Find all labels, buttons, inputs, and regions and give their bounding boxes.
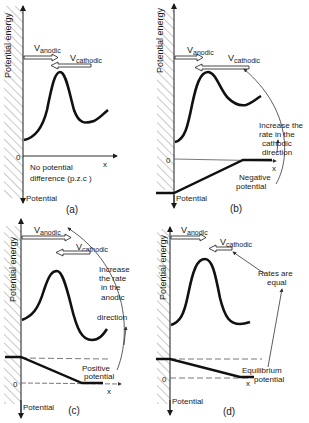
reference-line bbox=[21, 358, 108, 359]
y-axis-label: Potential energy bbox=[3, 12, 13, 78]
potential-note: potential bbox=[84, 372, 114, 381]
potential-profile bbox=[156, 359, 254, 377]
v-anodic-label: Vanodic bbox=[181, 225, 208, 236]
note-line: Increase bbox=[99, 265, 130, 274]
note-line: direction bbox=[97, 313, 127, 322]
potential-label: Potential bbox=[172, 397, 203, 406]
zero-label: 0 bbox=[13, 380, 18, 389]
note-line: Rates are bbox=[258, 269, 293, 278]
note-line: cathodic bbox=[262, 139, 292, 148]
y-axis-label: Potential energy bbox=[8, 236, 18, 302]
energy-curve bbox=[22, 271, 107, 340]
energy-curve bbox=[171, 259, 250, 325]
note-line: rate in the bbox=[259, 130, 295, 139]
note-line: equal bbox=[267, 278, 287, 287]
panel-a: Potential energy 0 x Vanodic Vcathodic N… bbox=[3, 6, 117, 215]
panel-label: (c) bbox=[68, 405, 80, 416]
diagram-canvas: Potential energy 0 x Vanodic Vcathodic N… bbox=[0, 0, 309, 423]
panel-b: Potential energy 0 x Vanodic Vcathodic I… bbox=[155, 4, 304, 214]
x-axis-label: x bbox=[103, 160, 107, 169]
potential-note: Negative bbox=[239, 173, 271, 182]
zero-label: 0 bbox=[166, 156, 171, 165]
panel-d: Potential energy 0 x Vanodic Vcathodic R… bbox=[156, 225, 293, 417]
note-line: Increase the bbox=[259, 121, 304, 130]
note-line: in the bbox=[101, 283, 121, 292]
note-line: anodic bbox=[101, 293, 125, 302]
v-anodic-label: Vanodic bbox=[34, 225, 61, 236]
x-axis-label: x bbox=[107, 387, 111, 396]
potential-note: Equilibrium bbox=[242, 366, 282, 375]
potential-note: potential bbox=[254, 375, 284, 384]
y-axis-label: Potential energy bbox=[155, 7, 165, 73]
energy-curve bbox=[175, 72, 261, 142]
v-cathodic-label: Vcathodic bbox=[228, 53, 261, 64]
energy-curve bbox=[24, 72, 108, 140]
x-axis-label: x bbox=[246, 379, 250, 388]
x-axis-label: x bbox=[272, 164, 276, 173]
v-cathodic-arrow bbox=[195, 64, 249, 71]
y-axis-label: Potential energy bbox=[158, 234, 168, 300]
panel-c: Potential energy 0 x Vanodic Vcathodic I… bbox=[4, 219, 130, 418]
v-cathodic-label: Vcathodic bbox=[70, 53, 103, 64]
panel-label: (a) bbox=[66, 204, 78, 215]
x-axis bbox=[21, 383, 121, 384]
note-line: No potential bbox=[30, 163, 73, 172]
potential-label: Potential bbox=[176, 194, 207, 203]
note-line: difference (p.z.c ) bbox=[30, 174, 92, 183]
v-anodic-label: Vanodic bbox=[187, 45, 214, 56]
zero-label: 0 bbox=[16, 153, 21, 162]
note-line: direction bbox=[262, 148, 292, 157]
potential-note: potential bbox=[236, 182, 266, 191]
v-anodic-arrow bbox=[24, 54, 58, 61]
annotation-arrow bbox=[268, 289, 282, 367]
v-anodic-label: Vanodic bbox=[34, 43, 61, 54]
potential-label: Potential bbox=[23, 403, 54, 412]
panel-label: (b) bbox=[230, 203, 242, 214]
note-line: the rate bbox=[99, 274, 127, 283]
v-cathodic-label: Vcathodic bbox=[220, 237, 253, 248]
panel-label: (d) bbox=[223, 406, 235, 417]
v-anodic-arrow bbox=[175, 54, 203, 61]
potential-label: Potential bbox=[26, 194, 57, 203]
zero-label: 0 bbox=[162, 375, 167, 384]
